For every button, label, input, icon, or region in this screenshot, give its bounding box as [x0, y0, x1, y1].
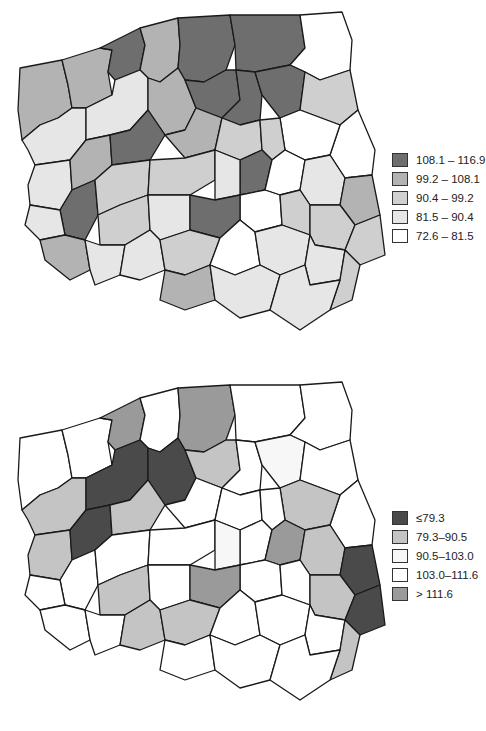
legend-item: 72.6 – 81.5 [392, 226, 486, 245]
map-region [25, 205, 65, 240]
choropleth-map-top [0, 0, 390, 350]
legend-swatch [392, 191, 408, 205]
legend-label: 90.4 – 99.2 [416, 192, 474, 204]
map-region [255, 65, 305, 118]
map-region [255, 435, 305, 488]
legend-label: ≤79.3 [416, 512, 445, 524]
choropleth-map-bottom [0, 360, 390, 731]
legend-label: 81.5 – 90.4 [416, 211, 474, 223]
legend-item: 81.5 – 90.4 [392, 207, 486, 226]
legend-swatch [392, 210, 408, 224]
legend-swatch [392, 587, 408, 601]
legend-bottom: ≤79.379.3–90.590.5–103.0103.0–111.6> 111… [392, 508, 478, 603]
legend-swatch [392, 511, 408, 525]
legend-label: 99.2 – 108.1 [416, 173, 480, 185]
legend-item: > 111.6 [392, 584, 478, 603]
legend-item: 99.2 – 108.1 [392, 169, 486, 188]
legend-label: > 111.6 [416, 588, 453, 600]
legend-item: ≤79.3 [392, 508, 478, 527]
legend-swatch [392, 172, 408, 186]
legend-item: 79.3–90.5 [392, 527, 478, 546]
legend-swatch [392, 549, 408, 563]
map-region [40, 605, 90, 650]
legend-item: 103.0–111.6 [392, 565, 478, 584]
map-region [40, 235, 90, 280]
legend-label: 103.0–111.6 [416, 569, 478, 581]
legend-label: 72.6 – 81.5 [416, 230, 474, 242]
legend-swatch [392, 568, 408, 582]
legend-top: 108.1 – 116.999.2 – 108.190.4 – 99.281.5… [392, 150, 486, 245]
legend-item: 90.4 – 99.2 [392, 188, 486, 207]
legend-swatch [392, 530, 408, 544]
legend-label: 90.5–103.0 [416, 550, 474, 562]
legend-label: 108.1 – 116.9 [416, 154, 486, 166]
legend-item: 90.5–103.0 [392, 546, 478, 565]
map-region [85, 610, 125, 655]
legend-swatch [392, 153, 408, 167]
legend-item: 108.1 – 116.9 [392, 150, 486, 169]
legend-label: 79.3–90.5 [416, 531, 467, 543]
map-region [148, 150, 215, 195]
map-region [85, 240, 125, 285]
map-region [148, 520, 215, 565]
map-region [25, 575, 65, 610]
legend-swatch [392, 229, 408, 243]
